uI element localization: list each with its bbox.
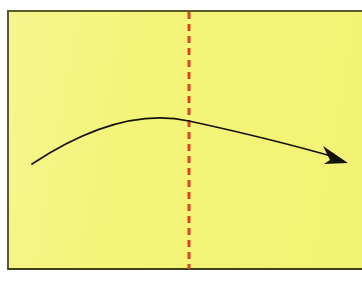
origami-paper-sheet xyxy=(7,10,362,270)
diagram-canvas: Origami fold step diagram A yellow squar… xyxy=(0,0,362,282)
paper-shading xyxy=(9,12,362,268)
